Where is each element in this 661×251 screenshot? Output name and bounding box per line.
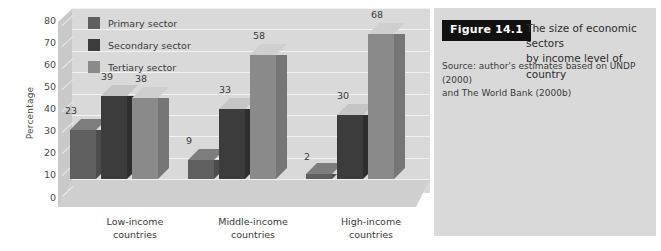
legend-item-secondary-sector: Secondary sector bbox=[88, 36, 191, 54]
x-label-low-income-line1: Low-income bbox=[70, 216, 200, 229]
legend-label-tertiary: Tertiary sector bbox=[108, 62, 176, 73]
y-tick-20: 20 bbox=[28, 148, 56, 158]
bar-middle-income-tertiary bbox=[250, 55, 276, 179]
bar-low-income-primary bbox=[70, 130, 96, 179]
x-label-high-income-line1: High-income bbox=[306, 216, 436, 229]
y-tick-30: 30 bbox=[28, 126, 56, 136]
plot-floor bbox=[58, 179, 430, 207]
y-tick-70: 70 bbox=[28, 38, 56, 48]
x-label-middle-income: Middle-income countries bbox=[188, 216, 318, 242]
bar-front bbox=[101, 96, 127, 179]
figure-source: Source: author's estimates based on UNDP… bbox=[442, 60, 648, 101]
bar-value-middle-secondary: 33 bbox=[208, 85, 242, 95]
legend-swatch-primary-icon bbox=[88, 17, 100, 29]
legend-swatch-tertiary-icon bbox=[88, 61, 100, 73]
figure-number-badge: Figure 14.1 bbox=[442, 20, 531, 41]
bar-front bbox=[219, 109, 245, 179]
figure-title-line1: The size of economic sectors bbox=[526, 21, 650, 51]
bar-front bbox=[368, 34, 394, 179]
x-label-low-income: Low-income countries bbox=[70, 216, 200, 242]
bar-value-high-primary: 2 bbox=[290, 152, 324, 162]
bar-front bbox=[132, 98, 158, 179]
y-tick-60: 60 bbox=[28, 60, 56, 70]
x-label-high-income-line2: countries bbox=[306, 229, 436, 242]
x-label-low-income-line2: countries bbox=[70, 229, 200, 242]
bar-front bbox=[306, 174, 332, 179]
y-tick-80: 80 bbox=[28, 16, 56, 26]
figure-source-line1: Source: author's estimates based on UNDP… bbox=[442, 60, 648, 87]
bar-side bbox=[158, 98, 169, 179]
y-axis-ticks: 80 70 60 50 40 30 20 10 0 bbox=[22, 0, 56, 251]
bar-value-high-secondary: 30 bbox=[326, 91, 360, 101]
y-tick-50: 50 bbox=[28, 82, 56, 92]
legend-swatch-secondary-icon bbox=[88, 39, 100, 51]
bar-middle-income-secondary bbox=[219, 109, 245, 179]
bar-high-income-secondary bbox=[337, 115, 363, 179]
figure-info-panel: Figure 14.1 The size of economic sectors… bbox=[434, 8, 656, 236]
bar-value-low-primary: 23 bbox=[54, 106, 88, 116]
bar-side bbox=[276, 55, 287, 179]
y-tick-10: 10 bbox=[28, 170, 56, 180]
bar-value-high-tertiary: 68 bbox=[360, 10, 394, 20]
bar-middle-income-primary bbox=[188, 160, 214, 179]
x-label-middle-income-line1: Middle-income bbox=[188, 216, 318, 229]
bar-front bbox=[337, 115, 363, 179]
bar-low-income-secondary bbox=[101, 96, 127, 179]
bar-front bbox=[250, 55, 276, 179]
figure-root: Percentage 80 70 60 50 40 30 20 10 0 bbox=[0, 0, 661, 251]
bar-front bbox=[70, 130, 96, 179]
bar-side bbox=[394, 34, 405, 179]
legend: Primary sector Secondary sector Tertiary… bbox=[88, 14, 191, 80]
bar-value-middle-primary: 9 bbox=[172, 136, 206, 146]
legend-item-tertiary-sector: Tertiary sector bbox=[88, 58, 191, 76]
y-tick-40: 40 bbox=[28, 104, 56, 114]
legend-label-secondary: Secondary sector bbox=[108, 40, 191, 51]
bar-high-income-tertiary bbox=[368, 34, 394, 179]
legend-item-primary-sector: Primary sector bbox=[88, 14, 191, 32]
bar-front bbox=[188, 160, 214, 179]
x-label-middle-income-line2: countries bbox=[188, 229, 318, 242]
x-label-high-income: High-income countries bbox=[306, 216, 436, 242]
figure-source-line2: and The World Bank (2000b) bbox=[442, 87, 648, 101]
bar-low-income-tertiary bbox=[132, 98, 158, 179]
y-tick-0: 0 bbox=[28, 193, 56, 203]
gridline-0 bbox=[72, 179, 430, 180]
legend-label-primary: Primary sector bbox=[108, 18, 177, 29]
bar-high-income-primary bbox=[306, 174, 332, 179]
bar-value-middle-tertiary: 58 bbox=[242, 31, 276, 41]
